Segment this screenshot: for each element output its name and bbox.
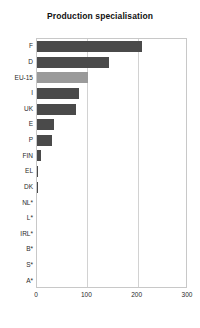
production-specialisation-chart: Production specialisation FDEU-15IUKEPFI… bbox=[0, 0, 200, 328]
bar-row bbox=[37, 39, 188, 55]
bar-row bbox=[37, 258, 188, 274]
bar-row bbox=[37, 133, 188, 149]
bar-i bbox=[37, 88, 79, 99]
bar-f bbox=[37, 41, 142, 52]
bar-row bbox=[37, 273, 188, 289]
bar-row bbox=[37, 180, 188, 196]
chart-title: Production specialisation bbox=[0, 11, 200, 21]
bar-eu-15 bbox=[37, 72, 88, 83]
y-tick-eu-15: EU-15 bbox=[0, 74, 33, 81]
bar-row bbox=[37, 86, 188, 102]
bars-layer bbox=[37, 39, 186, 287]
bar-row bbox=[37, 211, 188, 227]
bar-row bbox=[37, 70, 188, 86]
bar-row bbox=[37, 117, 188, 133]
y-tick-b-: B* bbox=[0, 245, 33, 252]
bar-row bbox=[37, 164, 188, 180]
y-tick-l-: L* bbox=[0, 214, 33, 221]
y-tick-a-: A* bbox=[0, 277, 33, 284]
bar-dk bbox=[37, 182, 38, 193]
y-tick-dk: DK bbox=[0, 183, 33, 190]
y-tick-fin: FIN bbox=[0, 152, 33, 159]
x-axis-tick-labels: 0100200300 bbox=[0, 291, 200, 303]
bar-row bbox=[37, 102, 188, 118]
y-tick-f: F bbox=[0, 42, 33, 49]
bar-e bbox=[37, 119, 54, 130]
bar-row bbox=[37, 148, 188, 164]
bar-fin bbox=[37, 150, 41, 161]
y-tick-e: E bbox=[0, 120, 33, 127]
y-tick-el: EL bbox=[0, 167, 33, 174]
y-tick-p: P bbox=[0, 136, 33, 143]
bar-row bbox=[37, 55, 188, 71]
bar-p bbox=[37, 135, 52, 146]
y-tick-nl-: NL* bbox=[0, 199, 33, 206]
bar-el bbox=[37, 166, 38, 177]
bar-d bbox=[37, 57, 109, 68]
bar-uk bbox=[37, 104, 76, 115]
y-axis-tick-labels: FDEU-15IUKEPFINELDKNL*L*IRL*B*S*A* bbox=[0, 38, 33, 288]
bar-row bbox=[37, 195, 188, 211]
bar-row bbox=[37, 227, 188, 243]
plot-area bbox=[36, 38, 187, 288]
bar-row bbox=[37, 242, 188, 258]
x-tick-0: 0 bbox=[34, 291, 38, 299]
y-tick-i: I bbox=[0, 89, 33, 96]
x-tick-100: 100 bbox=[81, 291, 92, 299]
x-tick-200: 200 bbox=[131, 291, 142, 299]
x-tick-300: 300 bbox=[182, 291, 193, 299]
y-tick-s-: S* bbox=[0, 261, 33, 268]
y-tick-irl-: IRL* bbox=[0, 230, 33, 237]
y-tick-d: D bbox=[0, 58, 33, 65]
y-tick-uk: UK bbox=[0, 105, 33, 112]
